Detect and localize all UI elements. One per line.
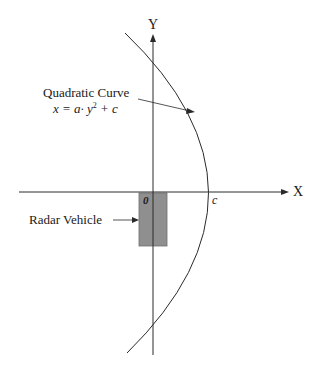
curve-equation-prefix: x = a· y xyxy=(53,101,93,116)
radar-vehicle-label: Radar Vehicle xyxy=(29,213,102,226)
origin-label: 0 xyxy=(143,195,149,206)
curve-title-label: Quadratic Curve xyxy=(43,86,129,99)
curve-equation-label: x = a· y2 + c xyxy=(53,102,118,115)
y-axis-arrowhead-icon xyxy=(150,34,156,42)
x-axis-arrowhead-icon xyxy=(281,189,289,195)
curve-leader-arrowhead-icon xyxy=(186,108,195,114)
vertex-c-label: c xyxy=(212,194,217,206)
diagram-canvas xyxy=(0,0,322,370)
curve-equation-suffix: + c xyxy=(97,101,118,116)
y-axis-label: Y xyxy=(148,18,158,32)
vehicle-leader-arrowhead-icon xyxy=(132,217,139,223)
x-axis-label: X xyxy=(293,185,303,199)
curve-leader-line xyxy=(138,99,190,111)
diagram: Y X 0 c Quadratic Curve x = a· y2 + c Ra… xyxy=(0,0,322,370)
